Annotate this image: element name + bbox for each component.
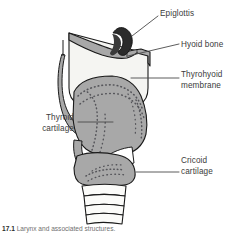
- label-epiglottis-line1: Epiglottis: [160, 9, 194, 20]
- label-thyroid-cartilage-line1: Thyroid: [12, 113, 74, 124]
- label-epiglottis: Epiglottis: [160, 9, 194, 20]
- label-thyroid-cartilage-line2: cartilage: [12, 124, 74, 135]
- label-hyoid-bone-line1: Hyoid bone: [181, 40, 223, 51]
- thyroid-cartilage-shape: [73, 76, 147, 156]
- label-thyrohyoid-membrane-line2: membrane: [181, 81, 223, 92]
- figure-caption-text: Larynx and associated structures.: [17, 225, 116, 232]
- label-thyrohyoid-membrane-line1: Thyrohyoid: [181, 70, 223, 81]
- epiglottis-shape: [110, 28, 132, 56]
- figure-caption-number: 17.1: [2, 225, 15, 232]
- label-cricoid-cartilage: Cricoid cartilage: [181, 156, 213, 177]
- label-hyoid-bone: Hyoid bone: [181, 40, 223, 51]
- trachea-shape: [82, 185, 126, 225]
- label-thyroid-cartilage: Thyroid cartilage: [12, 113, 74, 134]
- label-cricoid-cartilage-line1: Cricoid: [181, 156, 213, 167]
- leader-epiglottis: [132, 16, 158, 36]
- label-cricoid-cartilage-line2: cartilage: [181, 167, 213, 178]
- cricoid-cartilage-shape: [74, 153, 135, 187]
- figure-caption: 17.1 Larynx and associated structures.: [2, 225, 115, 233]
- label-thyrohyoid-membrane: Thyrohyoid membrane: [181, 70, 223, 91]
- figure-panel: Epiglottis Hyoid bone Thyrohyoid membran…: [0, 0, 237, 234]
